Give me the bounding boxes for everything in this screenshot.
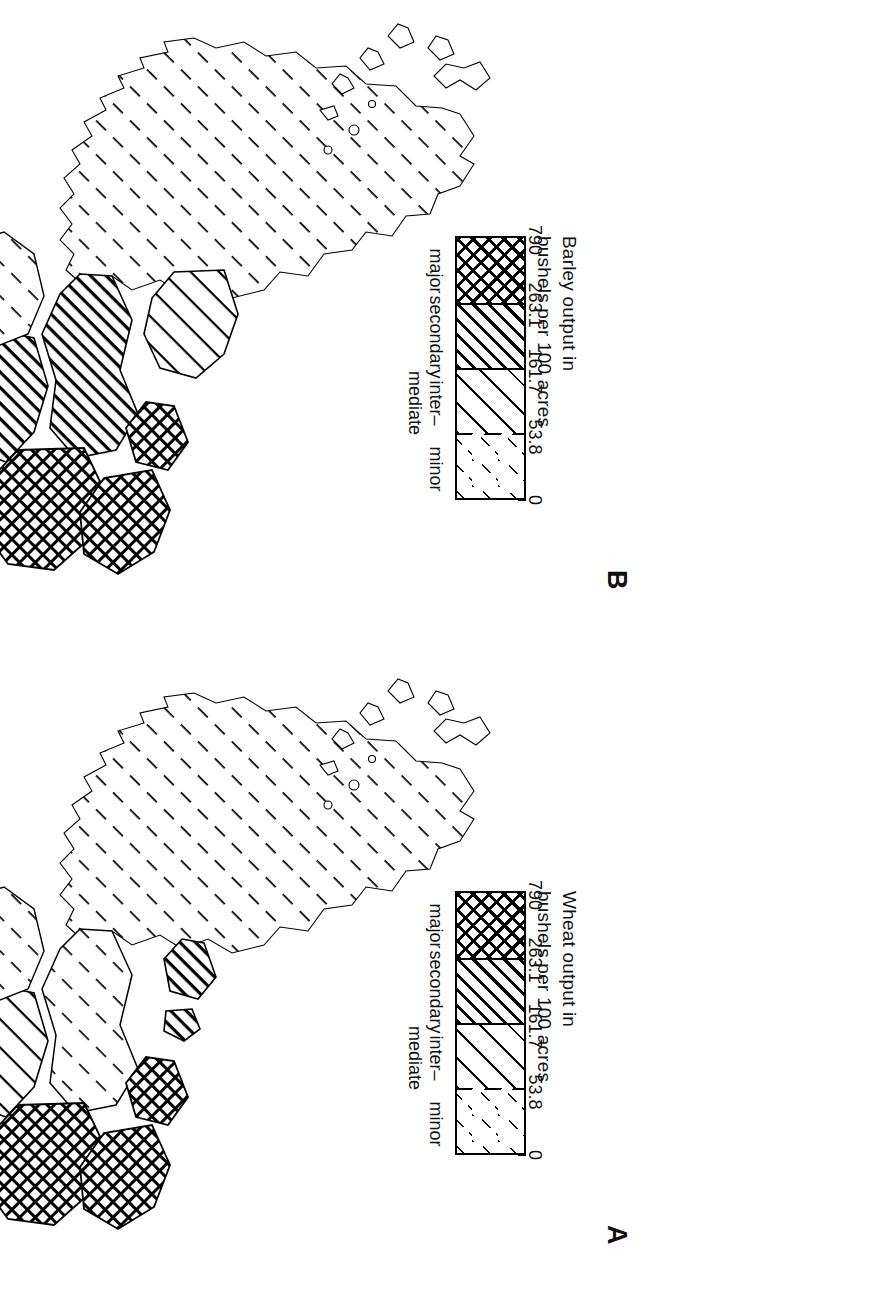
legend-tick-263-b: 263.1 [524,282,545,327]
panel-letter-a: A [601,1225,632,1245]
legend-tick-161-a: 161.7 [524,1003,545,1048]
legend-tick-790-b: 790 [524,225,545,255]
legend-tickline-4-a [518,1154,526,1156]
legend-tick-263-a: 263.1 [524,937,545,982]
map-svg-b [0,18,504,638]
legend-tick-labels-b: 790 263.1 161.7 53.8 0 [524,238,550,502]
map-svg-a [0,673,504,1293]
legend-tick-0-a: 0 [524,1150,545,1160]
legend-tickline-4-b [518,499,526,501]
panel-a: A Wheat output in bushels per 100 acres … [0,655,883,1309]
map-great-britain-b [0,18,504,638]
legend-tick-labels-a: 790 263.1 161.7 53.8 0 [524,893,550,1157]
legend-tick-53-a: 53.8 [524,1074,545,1109]
legend-tick-790-a: 790 [524,880,545,910]
figure-page: B Barley output in bushels per 100 acres… [0,0,883,1309]
legend-tick-53-b: 53.8 [524,419,545,454]
panel-b: B Barley output in bushels per 100 acres… [0,0,883,654]
legend-tick-161-b: 161.7 [524,348,545,393]
map-great-britain-a [0,673,504,1293]
legend-tick-0-b: 0 [524,495,545,505]
panel-letter-b: B [601,570,632,590]
